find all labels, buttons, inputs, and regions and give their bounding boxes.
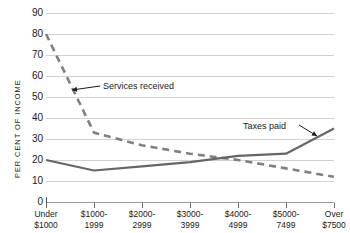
x-axis-label-line: Over <box>322 209 346 220</box>
x-axis-label-line: 4999 <box>225 220 251 231</box>
x-axis-label-line: $7500 <box>322 220 346 231</box>
gridlines <box>46 14 334 182</box>
x-axis-label-5: $5000-7499 <box>273 209 299 230</box>
annotation-services-received: Services received <box>103 81 174 91</box>
x-axis-label-2: $2000-2999 <box>129 209 155 230</box>
x-axis-label-4: $4000-4999 <box>225 209 251 230</box>
x-axis-label-line: $1000 <box>34 220 58 231</box>
x-axis-label-1: $1000-1999 <box>81 209 107 230</box>
x-axis-label-6: Over$7500 <box>322 209 346 230</box>
x-axis-label-line: 2999 <box>129 220 155 231</box>
series-line-taxes-paid <box>46 129 334 171</box>
x-axis-label-line: $3000- <box>177 209 203 220</box>
x-axis-label-3: $3000-3999 <box>177 209 203 230</box>
x-axis-ticks <box>47 203 335 208</box>
annotation-taxes-paid: Taxes paid <box>243 121 286 131</box>
x-axis-label-line: 7499 <box>273 220 299 231</box>
x-axis-label-line: $1000- <box>81 209 107 220</box>
x-axis-label-line: 1999 <box>81 220 107 231</box>
x-axis-label-line: $5000- <box>273 209 299 220</box>
x-axis-label-line: Under <box>34 209 58 220</box>
x-axis-label-line: $4000- <box>225 209 251 220</box>
chart-figure: PER CENT OF INCOME 90 80 70 60 50 40 30 … <box>0 0 350 233</box>
x-axis-label-0: Under$1000 <box>34 209 58 230</box>
plot-area <box>0 0 350 233</box>
x-axis-label-line: 3999 <box>177 220 203 231</box>
x-axis-label-line: $2000- <box>129 209 155 220</box>
